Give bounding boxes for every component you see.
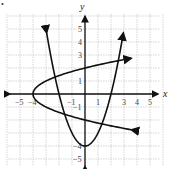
svg-text:−5: −5 xyxy=(73,155,82,164)
svg-text:3: 3 xyxy=(122,98,126,107)
svg-text:−1: −1 xyxy=(73,103,82,112)
svg-text:3: 3 xyxy=(78,51,82,60)
svg-text:5: 5 xyxy=(78,25,82,34)
question-bullet: • xyxy=(1,0,4,9)
svg-text:1: 1 xyxy=(96,98,100,107)
svg-text:4: 4 xyxy=(78,38,82,47)
svg-text:−5: −5 xyxy=(15,98,24,107)
svg-text:1: 1 xyxy=(78,77,82,86)
axes xyxy=(10,16,158,166)
y-axis-label: y xyxy=(79,1,85,12)
svg-text:5: 5 xyxy=(148,98,152,107)
x-axis-label: x xyxy=(162,88,168,99)
coordinate-plane-graph: • −5−4−113455431−1−4−5 y x xyxy=(0,0,169,169)
svg-text:4: 4 xyxy=(135,98,139,107)
